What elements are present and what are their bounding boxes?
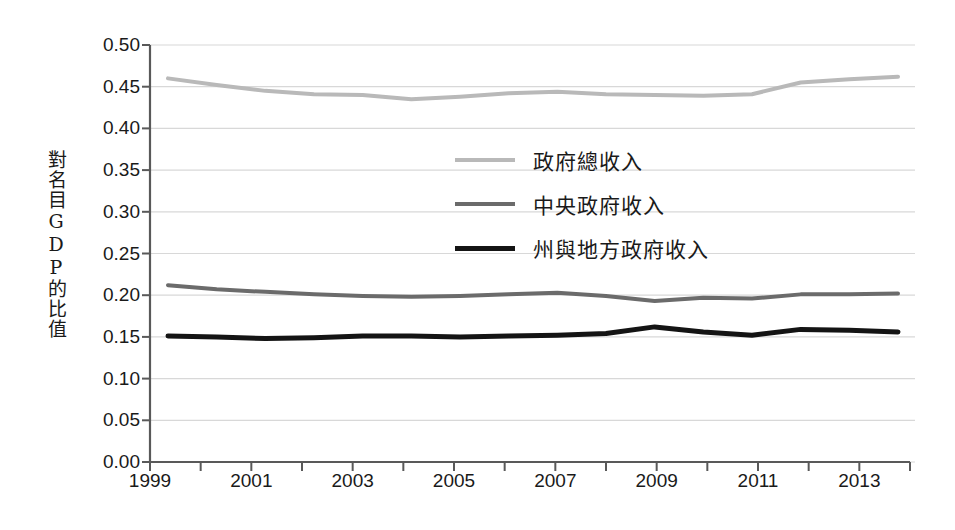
legend-item[interactable]: 政府總收入 (455, 138, 755, 182)
legend-item-label: 中央政府收入 (533, 189, 665, 219)
legend-line-swatch (455, 158, 515, 162)
chart-legend: 政府總收入中央政府收入州與地方政府收入 (455, 138, 755, 270)
legend-item[interactable]: 中央政府收入 (455, 182, 755, 226)
y-axis-tick-label: 0.15 (78, 326, 140, 348)
y-axis-tick-label: 0.35 (78, 159, 140, 181)
x-axis-tick-label: 1999 (129, 470, 171, 492)
legend-item-label: 州與地方政府收入 (533, 233, 709, 263)
x-axis-tick-label: 2011 (738, 470, 779, 492)
x-axis-tick-label: 2005 (433, 470, 475, 492)
y-axis-tick-label: 0.05 (78, 409, 140, 431)
x-axis-tick-label: 2001 (230, 470, 272, 492)
series-line-2 (168, 285, 898, 301)
legend-line-swatch (455, 246, 515, 251)
legend-item-label: 政府總收入 (533, 145, 643, 175)
x-axis-tick-label: 2007 (534, 470, 576, 492)
y-axis-title: 對名目GDP的比值 (26, 150, 66, 339)
revenue-share-line-chart: 對名目GDP的比值 0.000.050.100.150.200.250.300.… (0, 0, 955, 530)
x-axis-tick-label: 2013 (838, 470, 880, 492)
y-axis-tick-label: 0.45 (78, 76, 140, 98)
y-axis-tick-label: 0.10 (78, 368, 140, 390)
y-axis-tick-label: 0.20 (78, 284, 140, 306)
legend-item[interactable]: 州與地方政府收入 (455, 226, 755, 270)
x-axis-tick-label: 2003 (332, 470, 374, 492)
x-axis-tick-label: 2009 (636, 470, 678, 492)
legend-line-swatch (455, 202, 515, 206)
y-axis-tick-label: 0.30 (78, 201, 140, 223)
y-axis-tick-labels: 0.000.050.100.150.200.250.300.350.400.45… (78, 0, 140, 530)
y-axis-tick-label: 0.50 (78, 34, 140, 56)
y-axis-tick-label: 0.25 (78, 243, 140, 265)
y-axis-tick-label: 0.40 (78, 117, 140, 139)
series-line-1 (168, 77, 898, 100)
